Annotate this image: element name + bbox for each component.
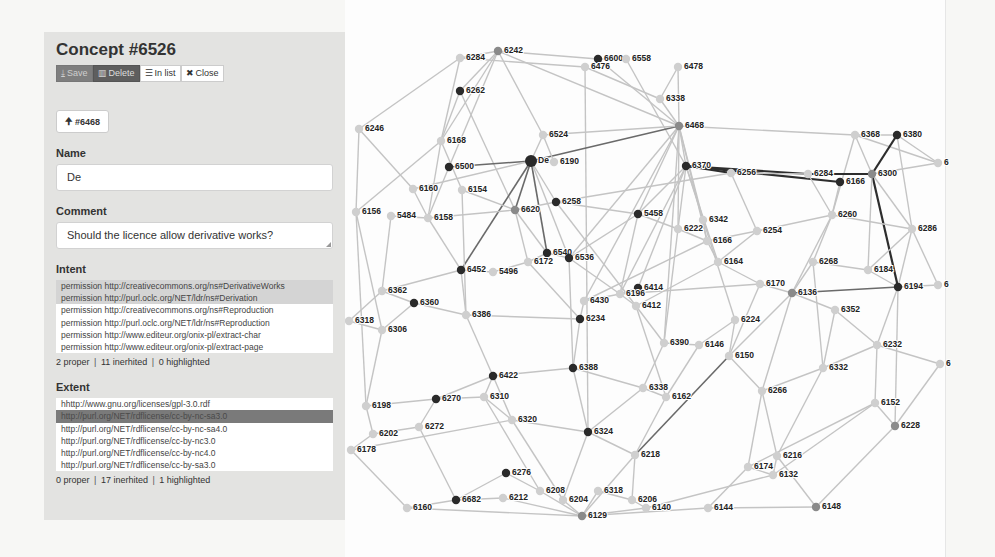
concept-node[interactable]: 6154: [458, 184, 487, 194]
concept-node[interactable]: 6224: [731, 314, 760, 324]
concept-node[interactable]: 6262: [456, 85, 485, 95]
node-circle[interactable]: [552, 198, 560, 206]
concept-node[interactable]: 6682: [452, 494, 481, 504]
node-circle[interactable]: [634, 210, 642, 218]
concept-node[interactable]: 6194: [894, 281, 923, 291]
node-circle[interactable]: [828, 211, 836, 219]
node-circle[interactable]: [456, 87, 464, 95]
node-circle[interactable]: [345, 317, 353, 325]
concept-node[interactable]: 6318: [594, 485, 623, 495]
node-circle[interactable]: [576, 315, 584, 323]
node-circle[interactable]: [355, 125, 363, 133]
concept-node[interactable]: 6204: [559, 494, 588, 504]
node-circle[interactable]: [727, 169, 735, 177]
concept-node[interactable]: 6310: [480, 391, 509, 401]
concept-node[interactable]: 6234: [576, 313, 605, 323]
node-circle[interactable]: [891, 422, 899, 430]
save-button[interactable]: ⤓ Save: [56, 65, 93, 82]
node-circle[interactable]: [502, 469, 510, 477]
node-circle[interactable]: [565, 254, 573, 262]
concept-node[interactable]: 6268: [809, 256, 838, 266]
concept-node[interactable]: 6272: [415, 421, 444, 431]
concept-node[interactable]: 6524: [539, 129, 568, 139]
concept-node[interactable]: 6232: [873, 339, 902, 349]
concept-node[interactable]: 6276: [502, 467, 531, 477]
node-circle[interactable]: [674, 63, 682, 71]
list-item[interactable]: http://purl.org/NET/rdflicense/cc-by-sa3…: [56, 459, 333, 471]
node-circle[interactable]: [539, 131, 547, 139]
concept-node[interactable]: 6148: [812, 501, 841, 511]
node-circle[interactable]: [642, 504, 650, 512]
concept-node[interactable]: 6162: [662, 391, 691, 401]
concept-node[interactable]: 6160: [403, 502, 432, 512]
node-circle[interactable]: [819, 364, 827, 372]
concept-node[interactable]: 6368: [851, 129, 880, 139]
node-circle[interactable]: [894, 283, 902, 291]
concept-node[interactable]: 6172: [524, 256, 553, 266]
concept-node[interactable]: 6500: [445, 161, 474, 171]
node-circle[interactable]: [524, 258, 532, 266]
node-circle[interactable]: [731, 316, 739, 324]
concept-node[interactable]: 6452: [457, 264, 486, 274]
node-circle[interactable]: [695, 341, 703, 349]
concept-node[interactable]: 6136: [788, 287, 817, 297]
node-circle[interactable]: [452, 496, 460, 504]
node-circle[interactable]: [714, 258, 722, 266]
concept-node[interactable]: 6: [934, 157, 949, 167]
concept-node[interactable]: 6352: [831, 304, 860, 314]
concept-node[interactable]: 6284: [804, 168, 833, 178]
node-circle[interactable]: [378, 287, 386, 295]
list-item[interactable]: http://purl.org/NET/rdflicense/cc-by-nc3…: [56, 435, 333, 447]
comment-textarea[interactable]: Should the licence allow derivative work…: [56, 222, 333, 249]
node-circle[interactable]: [873, 341, 881, 349]
node-circle[interactable]: [831, 306, 839, 314]
node-circle[interactable]: [908, 225, 916, 233]
list-item[interactable]: permission http://creativecommons.org/ns…: [56, 280, 333, 292]
node-circle[interactable]: [744, 463, 752, 471]
list-item[interactable]: hhttp://www.gnu.org/licenses/gpl-3.0.rdf: [56, 398, 333, 410]
concept-node[interactable]: 6129: [578, 510, 607, 520]
concept-node[interactable]: 6478: [674, 61, 703, 71]
node-circle[interactable]: [550, 158, 558, 166]
list-item[interactable]: permission http://www.editeur.org/onix-p…: [56, 329, 333, 341]
concept-node[interactable]: 6208: [536, 485, 565, 495]
node-circle[interactable]: [594, 487, 602, 495]
concept-node[interactable]: 6318: [345, 315, 374, 325]
node-circle[interactable]: [936, 360, 944, 368]
concept-node[interactable]: 6254: [753, 225, 782, 235]
node-circle[interactable]: [489, 372, 497, 380]
concept-node[interactable]: 6242: [494, 45, 523, 55]
node-circle[interactable]: [409, 185, 417, 193]
close-button[interactable]: ✖ Close: [181, 65, 224, 82]
concept-node[interactable]: 6284: [456, 52, 485, 62]
node-circle[interactable]: [656, 95, 664, 103]
node-circle[interactable]: [584, 428, 592, 436]
in-list-button[interactable]: ☰ In list: [140, 65, 181, 82]
list-item[interactable]: permission http://purl.oclc.org/NET/ldr/…: [56, 292, 333, 304]
list-item[interactable]: permission http://creativecommons.org/ns…: [56, 304, 333, 316]
node-circle[interactable]: [756, 280, 764, 288]
node-circle[interactable]: [864, 266, 872, 274]
concept-node[interactable]: 5458: [634, 208, 663, 218]
node-circle[interactable]: [489, 268, 497, 276]
parent-concept-button[interactable]: 🠉 #6468: [56, 110, 109, 133]
node-circle[interactable]: [480, 393, 488, 401]
node-circle[interactable]: [494, 47, 502, 55]
node-circle[interactable]: [616, 290, 624, 298]
node-circle[interactable]: [347, 446, 355, 454]
node-circle[interactable]: [457, 266, 465, 274]
list-item[interactable]: permission http://www.editeur.org/onix-p…: [56, 341, 333, 353]
node-circle[interactable]: [458, 186, 466, 194]
concept-node[interactable]: 6360: [410, 297, 439, 307]
node-circle[interactable]: [622, 55, 630, 63]
concept-node[interactable]: 6260: [828, 209, 857, 219]
node-circle[interactable]: [769, 471, 777, 479]
concept-node[interactable]: 6202: [369, 428, 398, 438]
concept-node[interactable]: 6212: [499, 492, 528, 502]
concept-node[interactable]: 6286: [908, 223, 937, 233]
node-circle[interactable]: [569, 364, 577, 372]
concept-node[interactable]: 6246: [355, 123, 384, 133]
concept-node[interactable]: 6620: [511, 204, 540, 214]
concept-node[interactable]: 6146: [695, 339, 724, 349]
node-circle[interactable]: [675, 122, 683, 130]
